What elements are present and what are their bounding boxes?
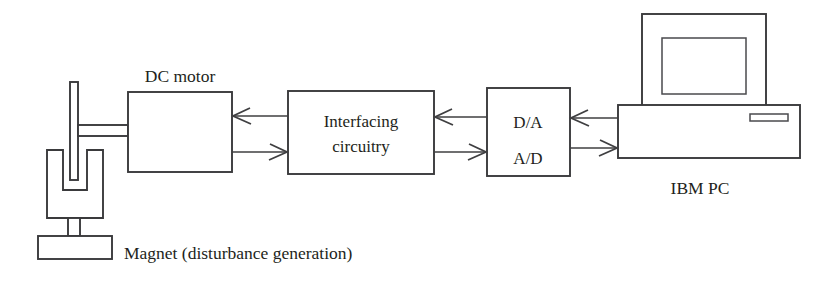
arrow-interfacing-to-converter xyxy=(434,144,486,160)
magnet-stem xyxy=(68,218,80,236)
block-diagram: DC motor Interfacing circuitry D/A A/D I… xyxy=(0,0,833,282)
ibm-pc-label: IBM PC xyxy=(671,178,730,198)
magnet-base xyxy=(38,236,112,259)
monitor-screen-icon xyxy=(662,38,746,94)
arrow-pc-to-converter xyxy=(571,110,618,126)
arrow-interfacing-to-motor xyxy=(233,108,288,124)
dc-motor-label: DC motor xyxy=(145,66,216,86)
pc-case-icon xyxy=(618,105,800,158)
dc-motor-block: DC motor xyxy=(128,66,232,172)
dc-motor-box xyxy=(128,92,232,172)
magnet-caption-label: Magnet (disturbance generation) xyxy=(124,243,353,263)
magnet-assembly xyxy=(38,82,128,259)
interfacing-circuitry-label-line1: Interfacing xyxy=(324,112,399,131)
interfacing-circuitry-label-line2: circuitry xyxy=(332,137,390,156)
da-label: D/A xyxy=(513,113,543,132)
interfacing-circuitry-box xyxy=(288,91,434,174)
arrow-motor-to-interfacing xyxy=(232,144,287,160)
interfacing-circuitry-block: Interfacing circuitry xyxy=(288,91,434,174)
motor-shaft xyxy=(78,125,128,136)
ad-label: A/D xyxy=(513,149,542,168)
diagram-canvas: DC motor Interfacing circuitry D/A A/D I… xyxy=(0,0,833,282)
pendulum-rod xyxy=(70,82,78,180)
ibm-pc-computer: IBM PC xyxy=(618,14,800,198)
floppy-drive-slot-icon xyxy=(750,114,788,121)
converter-block: D/A A/D xyxy=(487,88,570,176)
arrow-converter-to-interfacing xyxy=(435,109,487,125)
arrow-converter-to-pc xyxy=(570,140,617,156)
